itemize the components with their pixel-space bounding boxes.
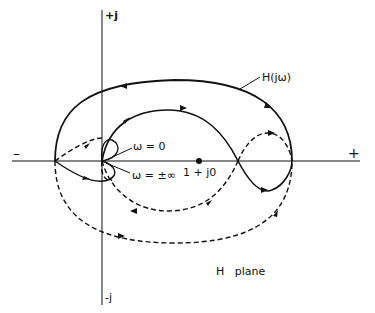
arrow-icon	[261, 187, 268, 193]
omega-zero-leader	[106, 148, 132, 160]
critical-point-label: 1 + j0	[183, 167, 216, 178]
imag-neg-label: -j	[105, 292, 112, 303]
critical-point-marker	[196, 158, 202, 164]
arrow-icon	[84, 143, 90, 149]
outer-solid-curve	[55, 80, 292, 161]
omega-zero-label: ω = 0	[133, 141, 165, 152]
curve-label: H(jω)	[262, 72, 291, 83]
arrow-icon	[268, 130, 275, 136]
curve-leader-line	[240, 77, 260, 89]
real-neg-label: –	[13, 146, 20, 160]
right-dashed-loop	[238, 133, 292, 161]
real-pos-label: +	[348, 146, 360, 160]
arrow-icon	[180, 105, 187, 111]
omega-inf-leader	[106, 163, 130, 173]
left-upper-dashed	[55, 138, 102, 161]
imag-pos-label: +j	[105, 10, 118, 21]
arrow-icon	[130, 208, 137, 214]
arrow-icon	[120, 83, 127, 89]
nyquist-diagram	[0, 0, 375, 313]
plane-label: H plane	[216, 266, 265, 277]
omega-inf-label: ω = ±∞	[132, 170, 176, 181]
